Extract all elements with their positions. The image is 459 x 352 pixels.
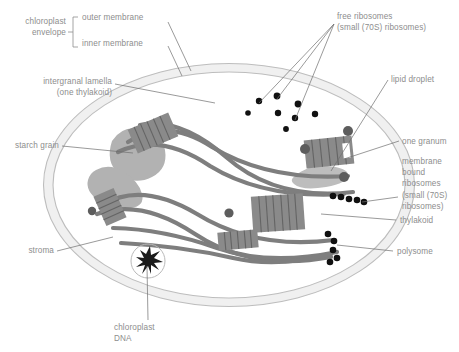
bound-ribosome: [343, 126, 353, 136]
free-ribosome: [292, 115, 298, 121]
chloroplast-envelope-bracket: [68, 17, 78, 47]
polysome-ribosome: [330, 193, 337, 200]
granum-bottom: [217, 229, 258, 250]
label-inner-membrane: inner membrane: [82, 38, 172, 49]
bound-ribosome: [224, 208, 233, 217]
label-membrane-bound-ribosomes: membrane bound ribosomes (small (70S) ri…: [402, 156, 459, 212]
polysome-ribosome: [334, 255, 341, 262]
granum-right: [304, 136, 355, 169]
label-starch-grain: starch grain: [0, 140, 59, 151]
polysome-ribosome: [354, 197, 361, 204]
granum-center: [251, 193, 305, 233]
free-ribosome: [283, 126, 289, 132]
label-free-ribosomes: free ribosomes (small (70S) ribosomes): [337, 11, 457, 33]
label-intergranal-lamella: intergranal lamella (one thylakoid): [0, 76, 112, 98]
label-polysome: polysome: [397, 246, 453, 257]
bound-ribosome: [339, 172, 349, 182]
bound-ribosome: [300, 144, 310, 154]
polysome-ribosome: [331, 238, 338, 245]
polysome-ribosome: [330, 247, 337, 254]
label-thylakoid: thylakoid: [400, 215, 456, 226]
bracket-shape: [73, 17, 78, 47]
polysome-ribosome: [327, 259, 334, 266]
polysome-ribosome: [346, 196, 353, 203]
free-ribosome: [312, 111, 318, 117]
free-ribosome: [245, 110, 251, 116]
label-chloroplast-dna: chloroplast DNA: [114, 322, 194, 344]
label-stroma: stroma: [0, 245, 54, 256]
polysome-ribosome: [325, 231, 332, 238]
label-one-granum: one granum: [402, 136, 459, 147]
label-chloroplast-envelope: chloroplast envelope: [0, 16, 66, 38]
label-outer-membrane: outer membrane: [82, 12, 172, 23]
chloroplast-diagram-figure: chloroplast envelope outer membrane inne…: [0, 0, 459, 352]
bound-ribosome: [88, 207, 96, 215]
free-ribosome: [275, 110, 281, 116]
polysome-ribosome: [338, 194, 345, 201]
diagram-canvas: [0, 0, 459, 352]
label-lipid-droplet: lipid droplet: [391, 74, 457, 85]
